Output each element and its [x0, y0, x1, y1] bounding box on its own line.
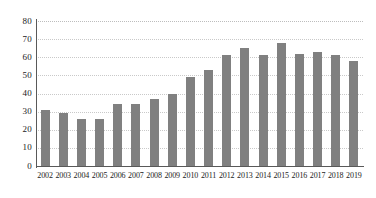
- bar: [331, 55, 340, 166]
- x-tick-label: 2017: [309, 171, 327, 181]
- bar: [113, 104, 122, 166]
- x-tick-label: 2013: [236, 171, 254, 181]
- y-axis-tick-labels: 01020304050607080: [0, 0, 32, 198]
- x-tick-label: 2014: [254, 171, 272, 181]
- y-tick-label: 80: [0, 17, 32, 26]
- y-tick-label: 30: [0, 107, 32, 116]
- y-axis-line: [36, 19, 37, 168]
- x-tick-label: 2005: [91, 171, 109, 181]
- bar: [277, 43, 286, 166]
- x-tick-label: 2003: [54, 171, 72, 181]
- bar: [95, 119, 104, 166]
- x-tick-label: 2016: [290, 171, 308, 181]
- x-tick-label: 2009: [163, 171, 181, 181]
- bar: [222, 55, 231, 166]
- y-tick-label: 50: [0, 71, 32, 80]
- bar: [77, 119, 86, 166]
- bar: [349, 61, 358, 166]
- x-tick-label: 2015: [272, 171, 290, 181]
- plot-area: [36, 21, 363, 166]
- y-tick-label: 10: [0, 143, 32, 152]
- x-tick-label: 2012: [218, 171, 236, 181]
- bar: [150, 99, 159, 166]
- x-tick-label: 2007: [127, 171, 145, 181]
- bar: [168, 94, 177, 167]
- y-tick-label: 0: [0, 162, 32, 171]
- y-tick-label: 60: [0, 53, 32, 62]
- x-axis-tick-labels: 2002200320042005200620072008200920102011…: [36, 171, 363, 187]
- y-tick-label: 20: [0, 125, 32, 134]
- bar: [313, 52, 322, 166]
- x-tick-label: 2008: [145, 171, 163, 181]
- y-tick-label: 70: [0, 35, 32, 44]
- bar: [186, 77, 195, 166]
- x-tick-label: 2019: [345, 171, 363, 181]
- bar: [259, 55, 268, 166]
- x-tick-label: 2010: [181, 171, 199, 181]
- bars-group: [36, 21, 363, 166]
- x-tick-label: 2004: [72, 171, 90, 181]
- bar: [204, 70, 213, 166]
- bar: [240, 48, 249, 166]
- x-tick-label: 2002: [36, 171, 54, 181]
- bar: [295, 54, 304, 166]
- x-tick-label: 2018: [327, 171, 345, 181]
- x-tick-label: 2011: [200, 171, 218, 181]
- bar: [41, 110, 50, 166]
- bar: [131, 104, 140, 166]
- y-tick-label: 40: [0, 89, 32, 98]
- x-axis-line: [36, 166, 364, 167]
- x-tick-label: 2006: [109, 171, 127, 181]
- bar: [59, 113, 68, 166]
- bar-chart: 01020304050607080 2002200320042005200620…: [0, 0, 376, 198]
